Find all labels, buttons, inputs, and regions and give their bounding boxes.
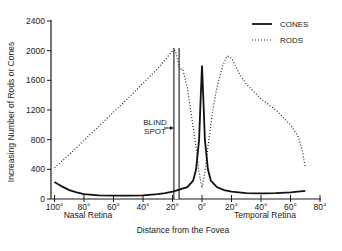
legend-rods-label: RODS <box>280 36 303 45</box>
rods-line <box>55 51 306 188</box>
y-tick-label: 1600 <box>26 75 45 85</box>
y-tick-label: 800 <box>31 135 45 145</box>
cones-line <box>55 66 306 196</box>
x-tick-label: 80° <box>314 202 327 212</box>
blind-spot-label-line2: SPOT <box>144 127 166 136</box>
y-tick-label: 2400 <box>26 16 45 26</box>
temporal-retina-label: Temporal Retina <box>234 210 296 220</box>
x-tick-label: 0° <box>198 202 206 212</box>
blind-spot-label-line1: BLIND <box>143 118 167 127</box>
blind-spot-band <box>175 48 179 199</box>
y-axis-title: Increasing Number of Rods or Cones <box>6 42 16 182</box>
x-axis-title: Distance from the Fovea <box>137 225 230 235</box>
chart-canvas: 04008001200160020002400 100°80°60°40°20°… <box>0 0 342 251</box>
y-tick-label: 1200 <box>26 105 45 115</box>
x-tick-label: 100° <box>46 202 64 212</box>
y-ticks: 04008001200160020002400 <box>26 16 51 204</box>
nasal-retina-label: Nasal Retina <box>64 210 113 220</box>
x-tick-label: 40° <box>137 202 150 212</box>
x-tick-label: 20° <box>166 202 179 212</box>
y-tick-label: 2000 <box>26 46 45 56</box>
legend: CONES RODS <box>252 20 308 45</box>
legend-cones-label: CONES <box>280 20 308 29</box>
y-tick-label: 400 <box>31 164 45 174</box>
y-tick-label: 0 <box>40 194 45 204</box>
